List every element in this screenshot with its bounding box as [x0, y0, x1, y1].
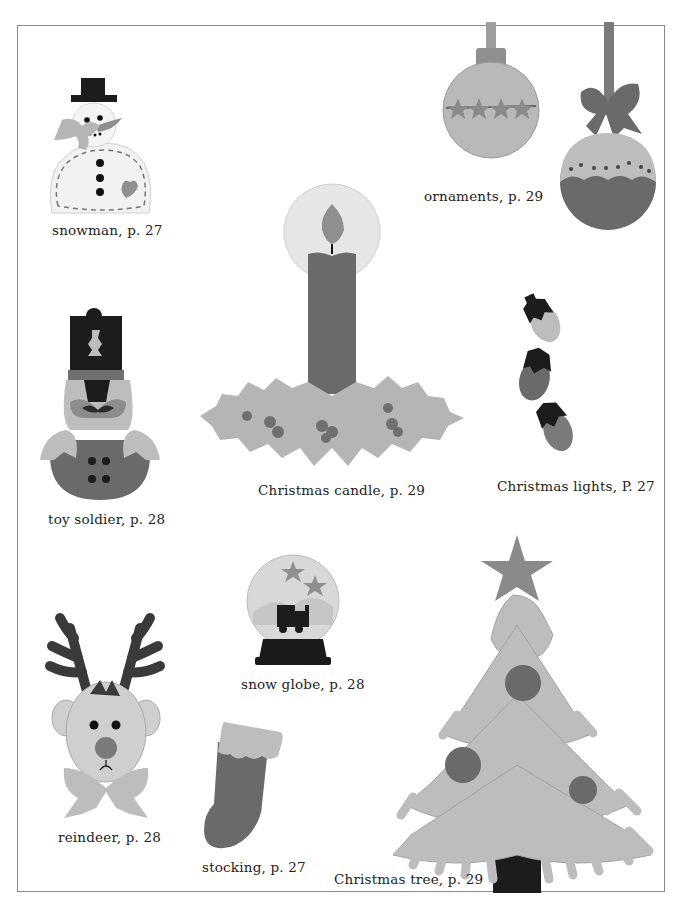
caption-toy-soldier: toy soldier, p. 28: [48, 511, 165, 527]
caption-stocking: stocking, p. 27: [202, 859, 306, 875]
light-bulb-icon: [516, 294, 586, 454]
stocking-icon: [204, 722, 284, 854]
caption-candle: Christmas candle, p. 29: [258, 482, 425, 498]
toy-soldier-icon: [40, 310, 160, 505]
christmas-tree-icon: [393, 535, 663, 893]
caption-snowman: snowman, p. 27: [52, 222, 163, 238]
snowman-icon: [44, 78, 164, 218]
candle-icon: [192, 186, 467, 476]
caption-reindeer: reindeer, p. 28: [58, 829, 161, 845]
caption-snow-globe: snow globe, p. 28: [241, 676, 365, 692]
reindeer-icon: [44, 608, 168, 823]
snow-globe-icon: [243, 555, 343, 667]
caption-tree: Christmas tree, p. 29: [334, 871, 483, 887]
caption-lights: Christmas lights, P. 27: [497, 478, 655, 494]
